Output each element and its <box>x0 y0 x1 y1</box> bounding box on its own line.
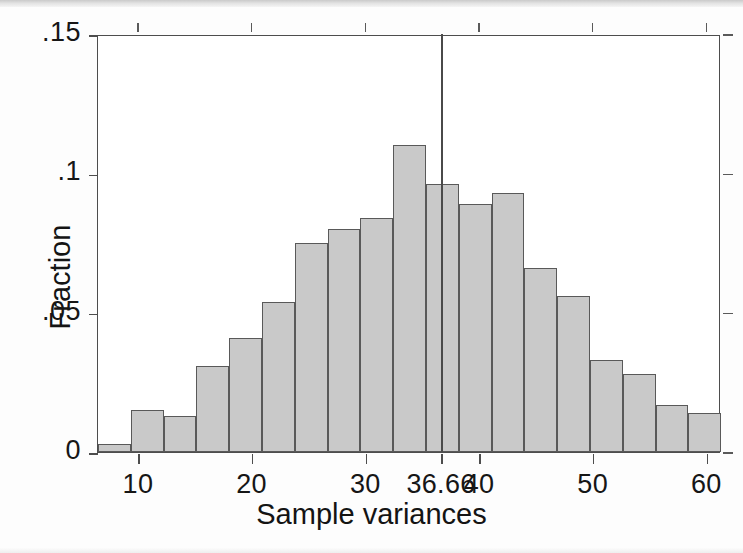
x-tick-mark <box>441 454 443 464</box>
histogram-bar <box>295 243 328 452</box>
histogram-bar <box>360 218 393 452</box>
histogram-bar <box>131 410 164 452</box>
x-tick-mark <box>366 454 368 464</box>
histogram-bar <box>459 204 492 452</box>
top-margin-tick <box>706 23 708 32</box>
y-tick-mark <box>89 453 98 455</box>
top-margin-tick <box>592 23 594 32</box>
histogram-bar <box>164 416 197 452</box>
histogram-bar <box>229 338 262 452</box>
x-tick-label: 30 <box>350 469 381 500</box>
histogram-bar <box>196 366 229 452</box>
x-tick-mark <box>138 454 140 464</box>
right-margin-tick <box>723 34 733 36</box>
scan-artifact-top <box>0 0 743 7</box>
histogram-bar <box>524 268 557 452</box>
histogram-bar <box>98 444 131 452</box>
bars-container <box>98 36 719 452</box>
x-tick-label: 40 <box>464 469 495 500</box>
histogram-bar <box>492 193 525 452</box>
reference-line <box>441 34 443 452</box>
x-tick-mark <box>593 454 595 464</box>
histogram-bar <box>328 229 361 452</box>
top-margin-tick <box>365 23 367 32</box>
y-tick-label: 0 <box>65 435 81 466</box>
histogram-bar <box>393 145 426 452</box>
x-tick-label: 10 <box>123 469 154 500</box>
top-margin-tick <box>251 23 253 32</box>
histogram-bar <box>557 296 590 452</box>
right-margin-tick <box>723 452 733 454</box>
figure: Fraction 0.05.1.15 10203036.66405060 Sam… <box>0 0 743 553</box>
y-tick-label: .05 <box>42 296 81 327</box>
y-tick-label: .1 <box>57 156 81 187</box>
scan-artifact-bottom <box>0 548 743 553</box>
x-tick-label: 50 <box>577 469 608 500</box>
y-tick-mark <box>89 314 98 316</box>
histogram-bar <box>688 413 721 452</box>
top-margin-tick <box>478 23 480 32</box>
plot-area <box>97 35 720 453</box>
top-margin-tick <box>137 23 139 32</box>
histogram-bar <box>623 374 656 452</box>
x-tick-label: 20 <box>236 469 267 500</box>
x-tick-mark <box>252 454 254 464</box>
y-tick-mark <box>89 175 98 177</box>
histogram-bar <box>262 302 295 452</box>
y-tick-mark <box>89 35 98 37</box>
x-tick-mark <box>479 454 481 464</box>
histogram-bar <box>590 360 623 452</box>
x-tick-mark <box>707 454 709 464</box>
x-tick-label: 60 <box>691 469 722 500</box>
right-margin-tick <box>723 313 733 315</box>
histogram-bar <box>656 405 689 452</box>
y-tick-label: .15 <box>42 17 81 48</box>
x-axis-title: Sample variances <box>0 498 743 531</box>
right-margin-tick <box>723 174 733 176</box>
